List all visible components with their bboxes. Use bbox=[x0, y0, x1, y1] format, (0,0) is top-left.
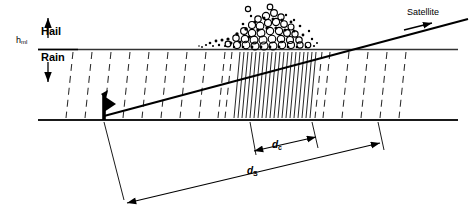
ds-subscript: S bbox=[253, 170, 258, 177]
hml-label: hml bbox=[16, 36, 27, 45]
ds-label: dS bbox=[247, 166, 258, 177]
dc-dimension bbox=[250, 122, 318, 155]
hail-label: Hail bbox=[41, 26, 61, 37]
rain-label: Rain bbox=[41, 52, 65, 63]
hail-mound bbox=[198, 4, 318, 50]
satellite-beam-path bbox=[104, 19, 468, 116]
diagram-canvas: hml Hail Rain Satellite dc dS bbox=[0, 0, 476, 221]
ds-dimension bbox=[104, 122, 384, 203]
diagram-svg bbox=[0, 0, 476, 221]
dc-label: dc bbox=[272, 140, 282, 151]
hml-subscript: ml bbox=[21, 39, 27, 45]
rain-field bbox=[66, 52, 406, 118]
satellite-label: Satellite bbox=[407, 8, 439, 17]
dc-subscript: c bbox=[278, 144, 282, 151]
